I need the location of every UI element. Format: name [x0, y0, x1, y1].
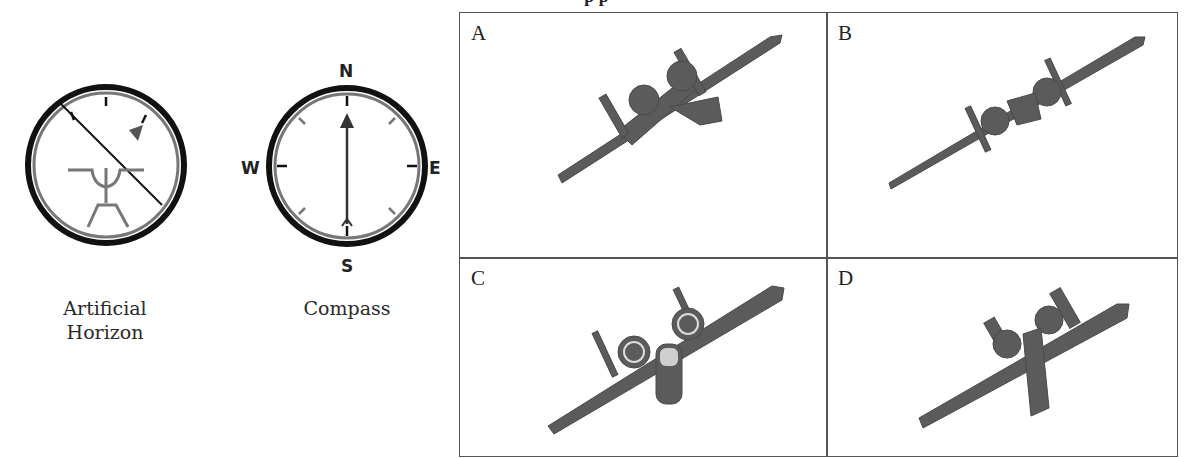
compass-icon — [257, 76, 437, 256]
artificial-horizon-label-line1: Artificial — [30, 296, 180, 320]
aircraft-d-icon — [827, 258, 1179, 458]
compass-north-label: N — [339, 61, 353, 81]
compass-label-line1: Compass — [272, 296, 422, 320]
artificial-horizon-label-line2: Horizon — [30, 320, 180, 344]
figure-title-clipped: p p — [0, 0, 1193, 6]
compass-east-label: E — [429, 158, 441, 178]
figure-title-text: p p — [584, 0, 609, 6]
option-cell-b[interactable]: B — [827, 13, 1179, 257]
compass-west-label: W — [241, 158, 260, 178]
compass-south-label: S — [341, 256, 353, 276]
artificial-horizon-icon — [16, 75, 196, 255]
option-cell-a[interactable]: A — [460, 13, 826, 257]
aircraft-a-icon — [460, 13, 826, 257]
option-cell-d[interactable]: D — [827, 258, 1179, 458]
aircraft-b-icon — [827, 13, 1179, 257]
aircraft-c-icon — [460, 258, 826, 458]
aircraft-options-grid: A B C — [459, 12, 1178, 457]
compass-label: Compass — [272, 296, 422, 320]
option-cell-c[interactable]: C — [460, 258, 826, 458]
artificial-horizon-label: Artificial Horizon — [30, 296, 180, 344]
